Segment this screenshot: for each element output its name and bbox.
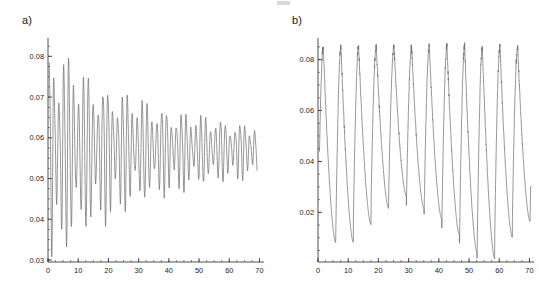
- svg-text:0.05: 0.05: [30, 174, 44, 183]
- panel-b-plot: 0102030405060700.020.040.060.08: [270, 0, 539, 292]
- svg-text:20: 20: [374, 266, 382, 275]
- svg-text:0.08: 0.08: [30, 52, 44, 61]
- svg-text:10: 10: [74, 266, 82, 275]
- svg-text:0.06: 0.06: [300, 106, 314, 115]
- svg-text:60: 60: [495, 266, 503, 275]
- panel-a: a) 0102030405060700.030.040.050.060.070.…: [0, 0, 269, 292]
- svg-text:0: 0: [316, 266, 320, 275]
- svg-text:40: 40: [165, 266, 173, 275]
- svg-text:50: 50: [465, 266, 473, 275]
- svg-text:0.06: 0.06: [30, 133, 44, 142]
- svg-text:20: 20: [104, 266, 112, 275]
- panel-b: b) 0102030405060700.020.040.060.08: [270, 0, 539, 292]
- svg-text:40: 40: [435, 266, 443, 275]
- svg-text:0: 0: [46, 266, 50, 275]
- svg-text:70: 70: [525, 266, 533, 275]
- svg-text:0.04: 0.04: [30, 215, 44, 224]
- svg-text:0.07: 0.07: [30, 93, 44, 102]
- svg-text:50: 50: [195, 266, 203, 275]
- svg-text:0.04: 0.04: [300, 157, 314, 166]
- svg-text:30: 30: [135, 266, 143, 275]
- svg-text:70: 70: [255, 266, 263, 275]
- svg-text:60: 60: [225, 266, 233, 275]
- svg-text:0.08: 0.08: [300, 55, 314, 64]
- svg-text:0.02: 0.02: [300, 208, 314, 217]
- figure-container: a) 0102030405060700.030.040.050.060.070.…: [0, 0, 539, 292]
- panel-a-plot: 0102030405060700.030.040.050.060.070.08: [0, 0, 269, 292]
- svg-text:30: 30: [405, 266, 413, 275]
- svg-text:0.03: 0.03: [30, 256, 44, 265]
- svg-text:10: 10: [344, 266, 352, 275]
